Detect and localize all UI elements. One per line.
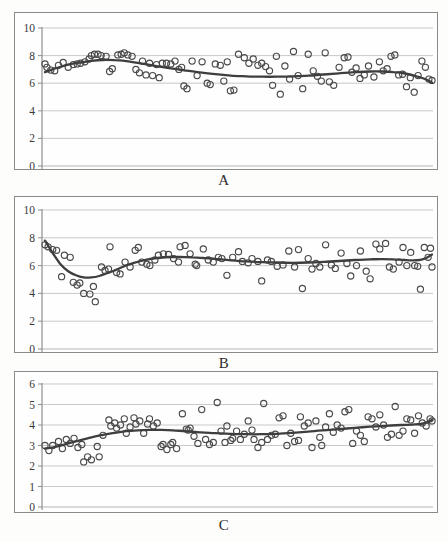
data-point xyxy=(415,413,421,419)
data-point xyxy=(235,249,241,255)
data-point xyxy=(67,254,73,260)
data-point xyxy=(224,423,230,429)
data-point xyxy=(92,299,98,305)
chart-b-caption: B xyxy=(0,355,448,372)
y-tick-label: 0 xyxy=(29,343,35,352)
data-point xyxy=(175,259,181,265)
y-tick-label: 6 xyxy=(29,77,35,89)
data-point xyxy=(224,272,230,278)
data-point xyxy=(361,438,367,444)
data-point xyxy=(421,244,427,250)
data-point xyxy=(429,264,435,270)
chart-c-plot: 0123456 xyxy=(15,372,437,512)
data-point xyxy=(235,51,241,57)
data-point xyxy=(377,412,383,418)
data-point xyxy=(338,250,344,256)
data-point xyxy=(388,53,394,59)
data-point xyxy=(371,74,377,80)
data-point xyxy=(251,436,257,442)
chart-panel-c: 0123456 xyxy=(14,371,438,513)
data-point xyxy=(179,411,185,417)
data-point xyxy=(348,273,354,279)
chart-panel-a: 0246810 xyxy=(14,12,438,170)
y-tick-label: 10 xyxy=(24,204,36,216)
data-point xyxy=(417,286,423,292)
data-point xyxy=(266,68,272,74)
data-point xyxy=(377,246,383,252)
y-tick-label: 10 xyxy=(24,22,36,34)
data-point xyxy=(345,54,351,60)
data-point xyxy=(245,418,251,424)
data-point xyxy=(300,86,306,92)
chart-panel-b: 0246810 xyxy=(14,196,438,353)
data-point xyxy=(317,434,323,440)
y-tick-label: 8 xyxy=(29,232,35,244)
data-point xyxy=(282,63,288,69)
y-tick-label: 4 xyxy=(29,287,35,299)
data-point xyxy=(121,416,127,422)
data-point xyxy=(419,58,425,64)
data-point xyxy=(408,249,414,255)
data-point xyxy=(313,418,319,424)
data-point xyxy=(59,274,65,280)
y-tick-label: 8 xyxy=(29,50,35,62)
data-point xyxy=(98,264,104,270)
data-point xyxy=(404,416,410,422)
y-tick-label: 1 xyxy=(29,481,35,493)
data-point xyxy=(353,65,359,71)
data-point xyxy=(261,400,267,406)
data-point xyxy=(156,75,162,81)
data-point xyxy=(322,50,328,56)
data-point xyxy=(199,59,205,65)
data-point xyxy=(295,247,301,253)
data-point xyxy=(273,53,279,59)
data-point xyxy=(332,265,338,271)
data-point xyxy=(191,433,197,439)
data-point xyxy=(286,248,292,254)
data-point xyxy=(422,64,428,70)
data-point xyxy=(295,437,301,443)
data-point xyxy=(365,63,371,69)
y-tick-label: 2 xyxy=(29,460,35,472)
data-point xyxy=(106,417,112,423)
data-point xyxy=(412,430,418,436)
data-point xyxy=(357,75,363,81)
y-tick-label: 4 xyxy=(29,419,35,431)
data-point xyxy=(94,443,100,449)
data-point xyxy=(305,256,311,262)
data-point xyxy=(63,436,69,442)
data-point xyxy=(224,59,230,65)
data-point xyxy=(403,84,409,90)
y-tick-label: 0 xyxy=(29,160,35,169)
y-tick-label: 4 xyxy=(29,105,35,117)
data-point xyxy=(299,285,305,291)
chart-a-caption: A xyxy=(0,172,448,189)
data-point xyxy=(411,89,417,95)
data-point xyxy=(336,64,342,70)
chart-b-plot: 0246810 xyxy=(15,197,437,352)
data-point xyxy=(323,242,329,248)
y-tick-label: 3 xyxy=(29,440,35,452)
data-point xyxy=(277,91,283,97)
data-point xyxy=(150,73,156,79)
y-tick-label: 2 xyxy=(29,315,35,327)
data-point xyxy=(199,407,205,413)
chart-c-caption: C xyxy=(0,517,448,534)
data-point xyxy=(305,51,311,57)
data-point xyxy=(250,56,256,62)
data-point xyxy=(55,438,61,444)
data-point xyxy=(357,248,363,254)
data-point xyxy=(297,414,303,420)
y-tick-label: 5 xyxy=(29,399,35,411)
data-point xyxy=(290,48,296,54)
trend-line xyxy=(45,60,432,83)
data-point xyxy=(90,283,96,289)
data-point xyxy=(363,268,369,274)
data-point xyxy=(392,52,398,58)
data-point xyxy=(54,247,60,253)
data-point xyxy=(174,446,180,452)
data-point xyxy=(310,68,316,74)
data-point xyxy=(96,454,102,460)
data-point xyxy=(292,264,298,270)
data-point xyxy=(408,417,414,423)
